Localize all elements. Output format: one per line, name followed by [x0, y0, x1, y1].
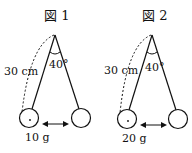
figure-2-length-label: 30 cm: [104, 65, 138, 76]
bob-right: [72, 109, 91, 128]
figure-2-angle-label: 40°: [145, 62, 165, 73]
bob-right: [169, 110, 188, 129]
figure-2: [118, 35, 188, 129]
bob-left: [118, 110, 137, 129]
angle-arc: [147, 52, 157, 54]
figure-1-mass-label: 10 g: [25, 132, 50, 143]
bob-center-dot: [127, 120, 129, 122]
figure-1-length-label: 30 cm: [4, 66, 38, 77]
figure-1-title: 図 1: [44, 9, 69, 22]
figure-2-mass-label: 20 g: [122, 133, 147, 144]
figure-2-title: 図 2: [142, 9, 167, 22]
angle-arc: [50, 52, 60, 54]
figure-1: [20, 35, 91, 128]
bob-left: [20, 109, 39, 128]
bob-center-dot: [29, 119, 31, 121]
figure-1-angle-label: 40°: [49, 59, 69, 70]
string-right: [55, 35, 79, 109]
